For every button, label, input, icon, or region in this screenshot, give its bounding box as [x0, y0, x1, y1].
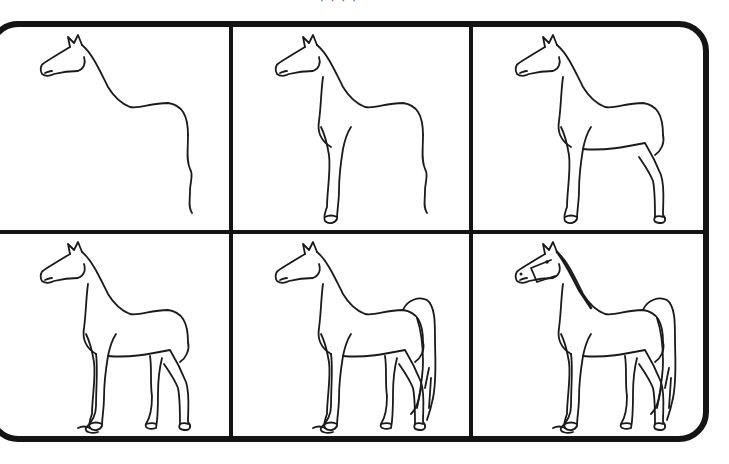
horse-sketch-step-1: [0, 27, 229, 230]
horse-sketch-step-2: [233, 27, 469, 230]
step-panel-2: [233, 27, 469, 230]
horse-sketch-step-4: [0, 234, 229, 436]
step-panel-6: [473, 234, 703, 436]
horse-sketch-step-5: [233, 234, 469, 436]
step-panel-3: [473, 27, 703, 230]
step-panel-4: [0, 234, 229, 436]
step-panel-5: [233, 234, 469, 436]
horse-sketch-step-3: [473, 27, 703, 230]
step-panel-1: [0, 27, 229, 230]
title-fragment: · · · ·: [320, 0, 358, 6]
horse-sketch-step-6: [473, 234, 703, 436]
